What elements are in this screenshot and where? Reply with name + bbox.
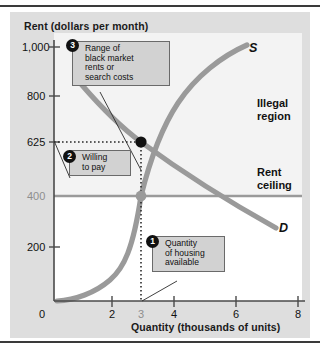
callout-3-number: 3 xyxy=(66,39,79,52)
x-tick-label-2: 2 xyxy=(109,308,115,320)
y-tick-label-0: 0 xyxy=(39,308,45,320)
y-tick-label-400: 400 xyxy=(27,190,45,202)
x-tick-label-6: 6 xyxy=(233,308,239,320)
y-axis-title: Rent (dollars per month) xyxy=(24,20,148,32)
y-tick-label-800: 800 xyxy=(27,90,45,102)
y-tick-label-1000: 1,000 xyxy=(22,41,50,53)
y-tick-label-200: 200 xyxy=(27,241,45,253)
chart-root: Rent (dollars per month) Quantity (thous… xyxy=(0,0,320,349)
rent-ceiling-label: Rent ceiling xyxy=(257,166,292,191)
callout-1: Quantity of housing available xyxy=(152,236,225,272)
callout-2-line2: to pay xyxy=(82,163,126,173)
callout-2-number: 2 xyxy=(63,150,76,163)
x-tick-label-8: 8 xyxy=(295,308,301,320)
quantity-supplied-marker xyxy=(136,191,147,202)
x-tick-label-4: 4 xyxy=(171,308,177,320)
illegal-region-label: Illegal region xyxy=(257,97,291,122)
callout-2: Willing to pay xyxy=(69,150,131,176)
illegal-region-label-line2: region xyxy=(257,110,291,123)
illegal-region-label-line1: Illegal xyxy=(257,97,291,110)
willing-to-pay-marker xyxy=(135,136,146,147)
x-tick-label-3: 3 xyxy=(138,308,144,320)
callout-3: Range of black market rents or search co… xyxy=(72,41,170,86)
x-axis-title: Quantity (thousands of units) xyxy=(131,321,280,333)
rent-ceiling-label-line1: Rent xyxy=(257,166,292,179)
callout-1-number: 1 xyxy=(146,235,159,248)
y-tick-label-625: 625 xyxy=(27,136,45,148)
supply-curve-label: S xyxy=(249,41,257,55)
demand-curve-label: D xyxy=(279,221,288,235)
callout-1-line3: available xyxy=(165,258,220,268)
callout-3-line4: search costs xyxy=(85,73,165,83)
rent-ceiling-label-line2: ceiling xyxy=(257,179,292,192)
